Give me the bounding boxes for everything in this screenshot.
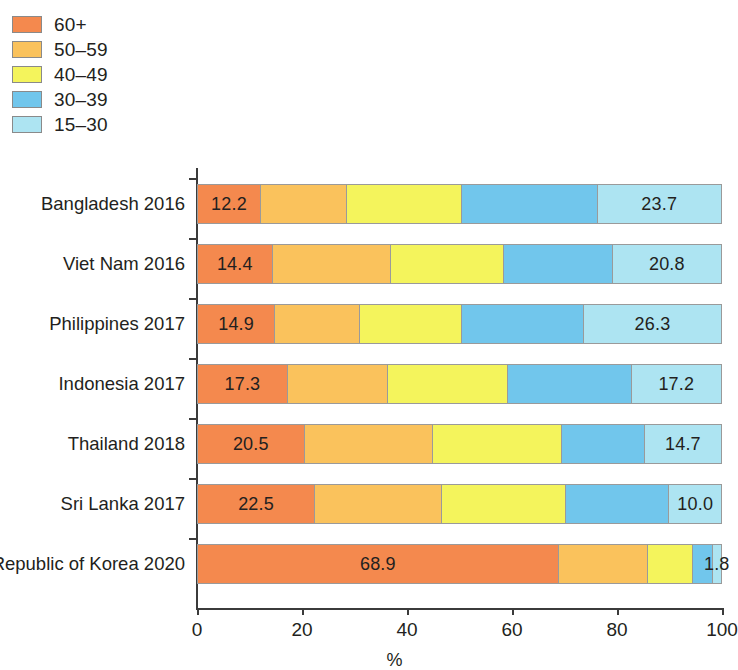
bar-segment xyxy=(315,484,442,524)
bar-row: Bangladesh 201612.223.7 xyxy=(197,174,722,234)
bar-segment xyxy=(462,184,597,224)
bar-segment: 14.4 xyxy=(197,244,273,284)
chart-legend: 60+ 50–59 40–49 30–39 15–30 xyxy=(12,12,232,137)
legend-label: 60+ xyxy=(54,15,87,34)
bar-segment: 17.2 xyxy=(632,364,722,404)
legend-swatch-15-30 xyxy=(12,116,42,133)
bar-segment xyxy=(442,484,566,524)
y-axis-tick xyxy=(189,298,197,300)
bar-segment xyxy=(275,304,360,344)
legend-swatch-30-39 xyxy=(12,91,42,108)
stacked-bar: 20.514.7 xyxy=(197,424,722,464)
bar-value-label: 17.2 xyxy=(658,374,694,395)
legend-item: 60+ xyxy=(12,12,232,37)
bar-segment: 20.5 xyxy=(197,424,305,464)
x-axis-title: % xyxy=(0,650,734,670)
bar-segment xyxy=(559,544,649,584)
bar-segment xyxy=(391,244,503,284)
bar-value-label: 12.2 xyxy=(211,194,247,215)
bar-segment xyxy=(462,304,584,344)
y-axis-tick xyxy=(189,418,197,420)
bar-segment xyxy=(360,304,462,344)
category-label: Bangladesh 2016 xyxy=(41,174,185,234)
x-axis-tick-label: 60 xyxy=(501,619,522,641)
y-axis-tick xyxy=(189,238,197,240)
bar-row: Viet Nam 201614.420.8 xyxy=(197,234,722,294)
x-axis-tick xyxy=(512,608,514,615)
bar-row: Sri Lanka 201722.510.0 xyxy=(197,474,722,534)
bar-segment xyxy=(504,244,613,284)
bar-segment: 10.0 xyxy=(669,484,722,524)
x-axis-tick-label: 40 xyxy=(396,619,417,641)
bar-segment: 20.8 xyxy=(613,244,722,284)
bar-value-label: 14.9 xyxy=(218,314,254,335)
legend-label: 30–39 xyxy=(54,90,108,109)
bar-value-label: 20.8 xyxy=(649,254,685,275)
bar-segment xyxy=(566,484,669,524)
y-axis-tick xyxy=(189,358,197,360)
bar-row: Republic of Korea 202068.91.8 xyxy=(197,534,722,594)
bar-value-label: 10.0 xyxy=(677,494,713,515)
x-axis-tick-label: 20 xyxy=(291,619,312,641)
bar-value-label: 26.3 xyxy=(635,314,671,335)
category-label: Republic of Korea 2020 xyxy=(0,534,185,594)
legend-item: 50–59 xyxy=(12,37,232,62)
bar-segment xyxy=(273,244,392,284)
bar-value-label: 17.3 xyxy=(224,374,260,395)
bar-row: Thailand 201820.514.7 xyxy=(197,414,722,474)
bar-segment: 14.7 xyxy=(645,424,722,464)
bar-value-label: 20.5 xyxy=(233,434,269,455)
bar-segment xyxy=(261,184,347,224)
x-axis-tick-label: 0 xyxy=(192,619,203,641)
x-axis-tick-label: 80 xyxy=(606,619,627,641)
legend-label: 50–59 xyxy=(54,40,108,59)
bar-segment xyxy=(433,424,562,464)
bar-segment: 23.7 xyxy=(598,184,722,224)
bar-segment: 26.3 xyxy=(584,304,722,344)
y-axis-tick xyxy=(189,478,197,480)
category-label: Thailand 2018 xyxy=(68,414,185,474)
stacked-bar: 14.420.8 xyxy=(197,244,722,284)
bar-value-label: 1.8 xyxy=(704,554,730,575)
y-axis-tick xyxy=(189,178,197,180)
bar-segment: 14.9 xyxy=(197,304,275,344)
category-label: Philippines 2017 xyxy=(49,294,185,354)
x-axis-title-text: % xyxy=(386,650,402,670)
legend-swatch-50-59 xyxy=(12,41,42,58)
bar-value-label: 23.7 xyxy=(641,194,677,215)
legend-item: 40–49 xyxy=(12,62,232,87)
bar-value-label: 68.9 xyxy=(360,554,396,575)
bar-value-label: 14.4 xyxy=(217,254,253,275)
bar-segment: 1.8 xyxy=(713,544,722,584)
bar-segment xyxy=(305,424,434,464)
legend-label: 40–49 xyxy=(54,65,108,84)
x-axis-tick xyxy=(617,608,619,615)
plot-area: Bangladesh 201612.223.7Viet Nam 201614.4… xyxy=(197,174,722,594)
stacked-bar: 12.223.7 xyxy=(197,184,722,224)
bar-value-label: 22.5 xyxy=(238,494,274,515)
bar-segment xyxy=(648,544,693,584)
bar-row: Indonesia 201717.317.2 xyxy=(197,354,722,414)
bar-segment xyxy=(562,424,645,464)
bar-segment xyxy=(288,364,388,404)
category-label: Sri Lanka 2017 xyxy=(61,474,185,534)
bar-segment xyxy=(508,364,632,404)
stacked-bar: 17.317.2 xyxy=(197,364,722,404)
legend-swatch-40-49 xyxy=(12,66,42,83)
bar-segment xyxy=(347,184,463,224)
legend-swatch-60-plus xyxy=(12,16,42,33)
bar-segment: 22.5 xyxy=(197,484,315,524)
legend-label: 15–30 xyxy=(54,115,108,134)
stacked-bar: 68.91.8 xyxy=(197,544,722,584)
category-label: Indonesia 2017 xyxy=(58,354,185,414)
x-axis-tick xyxy=(407,608,409,615)
bar-segment: 17.3 xyxy=(197,364,288,404)
bar-value-label: 14.7 xyxy=(665,434,701,455)
x-axis-tick xyxy=(197,608,199,615)
bar-segment: 68.9 xyxy=(197,544,559,584)
x-axis-tick xyxy=(302,608,304,615)
bar-segment: 12.2 xyxy=(197,184,261,224)
x-axis-tick xyxy=(722,608,724,615)
x-axis-tick-label: 100 xyxy=(706,619,738,641)
bar-row: Philippines 201714.926.3 xyxy=(197,294,722,354)
